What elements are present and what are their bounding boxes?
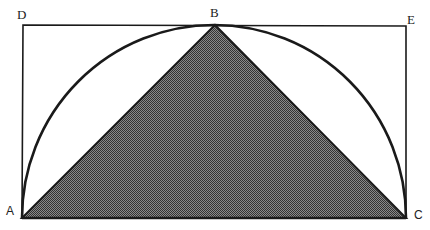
label-a: A <box>6 204 14 218</box>
label-d: D <box>17 7 26 22</box>
triangle-abc <box>22 25 406 218</box>
label-b: B <box>210 5 219 20</box>
label-c: C <box>414 208 423 222</box>
label-e: E <box>407 12 415 27</box>
geometry-figure: D B E A C <box>0 0 430 230</box>
